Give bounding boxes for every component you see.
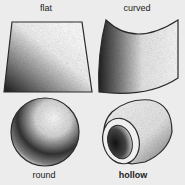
- round-shape: [11, 98, 79, 166]
- hollow-shape: [98, 100, 172, 168]
- curved-label: curved: [123, 3, 150, 13]
- shapes-diagram: [0, 0, 185, 185]
- round-label: round: [32, 170, 55, 180]
- curved-shape: [99, 20, 178, 93]
- hollow-label: hollow: [119, 170, 148, 180]
- flat-label: flat: [40, 3, 52, 13]
- flat-shape: [4, 22, 92, 92]
